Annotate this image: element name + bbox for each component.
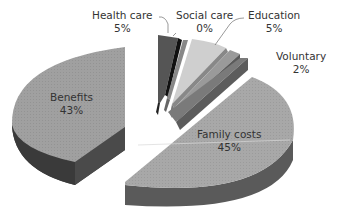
label-social-care: Social care 0% [176, 9, 233, 35]
label-name: Social care [176, 9, 233, 22]
label-pct: 5% [248, 22, 300, 35]
label-health-care: Health care 5% [92, 9, 153, 35]
label-pct: 45% [197, 141, 261, 154]
label-name: Education [248, 9, 300, 22]
label-name: Health care [92, 9, 153, 22]
label-pct: 43% [50, 104, 93, 117]
label-pct: 2% [276, 63, 326, 76]
label-education: Education 5% [248, 9, 300, 35]
label-pct: 5% [92, 22, 153, 35]
label-name: Benefits [50, 91, 93, 104]
label-name: Family costs [197, 128, 261, 141]
label-pct: 0% [176, 22, 233, 35]
label-name: Voluntary [276, 50, 326, 63]
label-benefits: Benefits 43% [50, 91, 93, 117]
label-voluntary: Voluntary 2% [276, 50, 326, 76]
label-family-costs: Family costs 45% [197, 128, 261, 154]
